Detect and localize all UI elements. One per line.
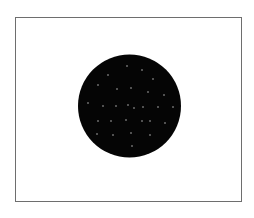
- white-dot: [149, 134, 150, 135]
- white-dot: [172, 106, 173, 107]
- white-dot: [115, 105, 116, 106]
- white-dot: [110, 120, 111, 121]
- white-dot: [133, 107, 134, 108]
- white-dot: [97, 84, 98, 85]
- white-dot: [142, 106, 143, 107]
- white-dot: [96, 133, 97, 134]
- white-dot: [130, 132, 131, 133]
- white-dot: [87, 102, 88, 103]
- white-dot: [147, 91, 148, 92]
- white-dot: [127, 104, 128, 105]
- white-dot: [116, 88, 117, 89]
- white-dot: [152, 78, 153, 79]
- white-dot: [141, 120, 142, 121]
- white-dot: [157, 106, 158, 107]
- white-dot: [97, 120, 98, 121]
- white-dot: [126, 65, 127, 66]
- white-dot: [163, 94, 164, 95]
- black-disc: [78, 55, 181, 158]
- white-dot: [130, 87, 131, 88]
- white-dot: [149, 120, 150, 121]
- white-dot: [125, 119, 126, 120]
- white-dot: [107, 74, 108, 75]
- white-dot: [102, 105, 103, 106]
- white-dot: [141, 69, 142, 70]
- figure-canvas: [0, 0, 254, 218]
- white-dot: [131, 145, 132, 146]
- white-dot: [112, 134, 113, 135]
- white-dot: [164, 122, 165, 123]
